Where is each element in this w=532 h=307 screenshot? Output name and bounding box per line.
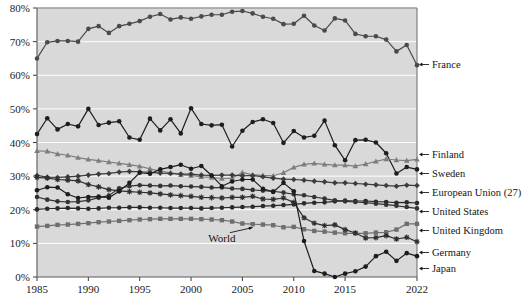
data-point-marker (137, 19, 142, 24)
data-point-marker (44, 175, 50, 181)
data-point-marker (322, 28, 327, 33)
data-point-marker (96, 24, 101, 29)
data-point-marker (291, 129, 296, 134)
data-point-marker (148, 171, 153, 176)
data-point-marker (240, 128, 245, 133)
legend-label: Sweden (432, 168, 466, 179)
data-point-marker (199, 195, 205, 201)
data-point-marker (322, 229, 326, 233)
y-tick-label: 40% (10, 137, 30, 149)
data-point-marker (374, 140, 379, 145)
data-point-marker (301, 215, 307, 221)
data-point-marker (415, 222, 419, 226)
data-point-marker (76, 39, 81, 44)
data-point-marker (415, 201, 420, 206)
data-point-marker (384, 37, 389, 42)
data-point-marker (343, 158, 348, 163)
data-point-marker (292, 225, 296, 229)
data-point-marker (127, 218, 131, 222)
data-point-marker (353, 200, 358, 205)
data-point-marker (127, 205, 132, 210)
y-tick-label: 80% (10, 2, 30, 14)
legend-arrowhead (419, 210, 422, 214)
data-point-marker (250, 188, 255, 193)
data-point-marker (353, 32, 358, 37)
data-point-marker (45, 40, 50, 45)
data-point-marker (414, 239, 420, 245)
data-point-marker (219, 195, 225, 201)
data-point-marker (363, 264, 368, 269)
data-point-marker (229, 195, 235, 201)
data-point-marker (261, 117, 266, 122)
data-point-marker (322, 223, 328, 229)
data-point-marker (148, 14, 153, 19)
data-point-marker (343, 199, 348, 204)
data-point-marker (220, 184, 225, 189)
data-point-marker (127, 181, 132, 186)
data-point-marker (148, 217, 152, 221)
data-point-marker (168, 117, 173, 122)
data-point-marker (168, 165, 173, 170)
data-point-marker (86, 206, 91, 211)
data-point-marker (86, 107, 91, 112)
legend-item-france[interactable]: France (419, 59, 461, 70)
data-point-marker (35, 132, 40, 137)
data-point-marker (148, 205, 153, 210)
legend-item-finland[interactable]: Finland (419, 149, 465, 160)
data-point-marker (271, 223, 275, 227)
data-point-marker (220, 218, 224, 222)
data-point-marker (271, 190, 276, 195)
data-point-marker (189, 16, 194, 21)
data-point-marker (230, 186, 235, 191)
data-point-marker (158, 184, 163, 189)
data-point-marker (404, 251, 409, 256)
data-point-marker (333, 230, 337, 234)
data-point-marker (271, 121, 276, 126)
data-point-marker (322, 271, 327, 276)
y-axis-ticks-group: 0%10%20%30%40%50%60%70%80% (10, 2, 37, 283)
data-point-marker (55, 185, 60, 190)
data-point-marker (394, 227, 398, 231)
data-point-marker (384, 249, 389, 254)
data-point-marker (55, 127, 60, 132)
x-tick-label: 1985 (26, 283, 49, 295)
legend-arrowhead (419, 63, 422, 67)
data-point-marker (66, 206, 71, 211)
data-point-marker (394, 259, 399, 264)
data-point-marker (189, 106, 194, 111)
data-point-marker (158, 167, 163, 172)
data-point-marker (333, 143, 338, 148)
data-point-marker (35, 224, 39, 228)
data-point-marker (394, 236, 400, 242)
legend-item-european-union-27[interactable]: European Union (27) (419, 187, 522, 199)
data-point-marker (363, 34, 368, 39)
data-point-marker (86, 27, 91, 32)
data-point-marker (250, 194, 256, 200)
data-point-marker (374, 254, 379, 259)
data-point-marker (179, 217, 183, 221)
data-point-marker (189, 166, 194, 171)
legend-item-united-states[interactable]: United States (419, 206, 488, 217)
data-point-marker (261, 187, 266, 192)
data-point-marker (45, 224, 49, 228)
legend-item-united-kingdom[interactable]: United Kingdom (419, 225, 503, 236)
data-point-marker (415, 63, 420, 68)
chart-container: 0%10%20%30%40%50%60%70%80% 1985199019952… (0, 0, 532, 307)
data-point-marker (271, 16, 276, 21)
legend-item-germany[interactable]: Germany (419, 247, 472, 258)
y-tick-label: 70% (10, 36, 30, 48)
data-point-marker (374, 201, 379, 206)
legend-item-japan[interactable]: Japan (419, 263, 457, 274)
data-point-marker (66, 222, 70, 226)
legend-item-sweden[interactable]: Sweden (419, 168, 466, 179)
data-point-marker (302, 239, 307, 244)
data-point-marker (178, 206, 183, 211)
data-point-marker (199, 164, 204, 169)
data-point-marker (220, 205, 225, 210)
data-point-marker (209, 185, 214, 190)
x-tick-label: 2005 (231, 283, 254, 295)
data-point-marker (383, 233, 389, 239)
data-point-marker (261, 204, 266, 209)
data-point-marker (189, 184, 194, 189)
data-point-marker (302, 193, 307, 198)
